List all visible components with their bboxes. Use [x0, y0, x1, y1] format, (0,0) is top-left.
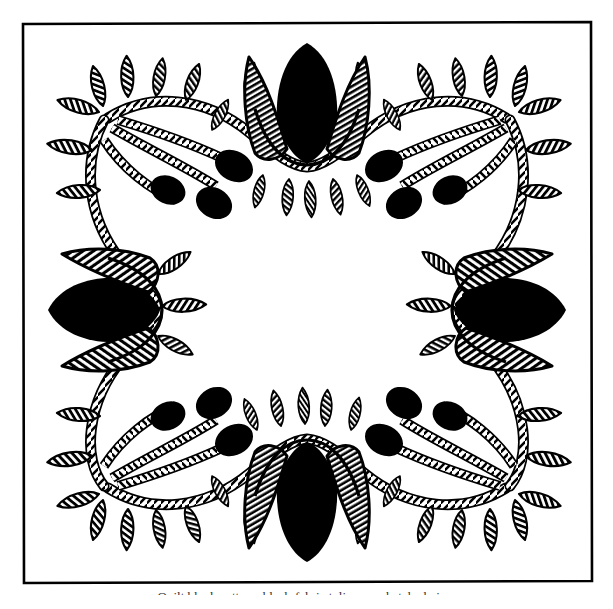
pattern-plate: Quilt block pattern: black-fabric tulips…: [0, 0, 613, 609]
appliqué-pattern-drawing: [0, 0, 613, 609]
plate-caption: Quilt block pattern: black-fabric tulips…: [0, 590, 613, 603]
caption-band: Quilt block pattern: black-fabric tulips…: [0, 590, 613, 609]
